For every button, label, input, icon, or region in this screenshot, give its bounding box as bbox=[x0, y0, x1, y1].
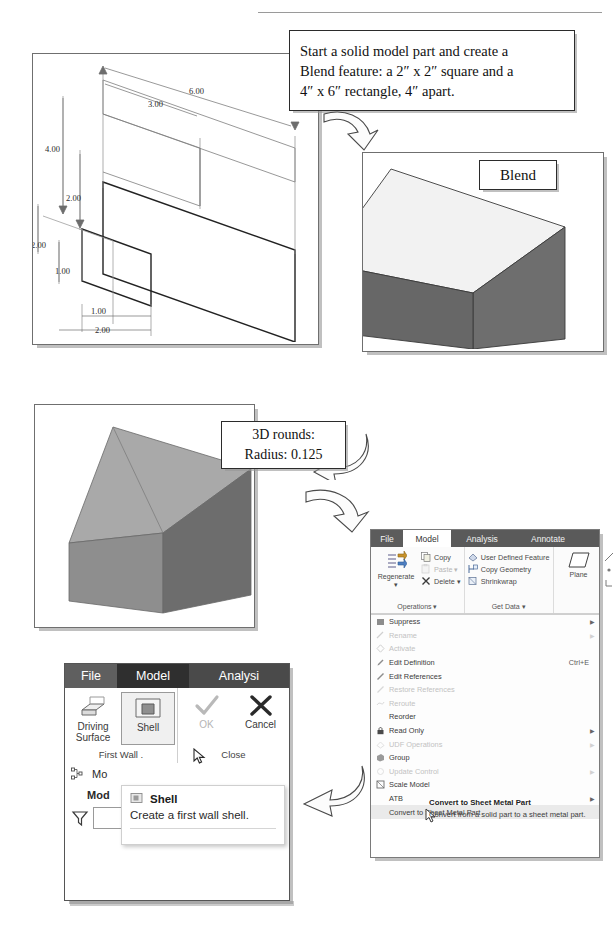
model-tree-icon bbox=[71, 767, 87, 781]
rounded-solid-model bbox=[35, 405, 252, 625]
shell-tab-analysis[interactable]: Analysi bbox=[189, 664, 289, 688]
menu-item-suppress[interactable]: Suppress ▶ bbox=[371, 615, 599, 629]
blend-callout: Blend bbox=[479, 160, 557, 190]
instruction-line-2: Blend feature: a 2″ x 2″ square and a bbox=[300, 61, 564, 81]
cancel-button[interactable]: Cancel bbox=[235, 692, 287, 732]
model-tree-label: Mo bbox=[92, 768, 107, 780]
menu-item-reorder[interactable]: Reorder bbox=[371, 710, 599, 724]
dim-6-00: 6.00 bbox=[189, 86, 204, 96]
model-tree-row[interactable]: Mo bbox=[65, 763, 289, 785]
update-control-icon bbox=[375, 767, 386, 776]
feature-context-menu: Suppress ▶ Rename ▶ Activate bbox=[371, 614, 599, 819]
ribbon-tab-overflow bbox=[583, 530, 599, 547]
shell-group-first-wall: DrivingSurface Shell First Wall . bbox=[65, 688, 178, 763]
menu-item-edit-definition[interactable]: Edit Definition Ctrl+E bbox=[371, 656, 599, 670]
shell-tooltip-body: Create a first wall shell. bbox=[122, 807, 284, 823]
shell-tab-model[interactable]: Model bbox=[117, 664, 189, 688]
edit-definition-shortcut: Ctrl+E bbox=[569, 658, 595, 667]
coordinate-system-icon[interactable] bbox=[604, 578, 614, 588]
rounds-line-1: 3D rounds: bbox=[222, 425, 345, 445]
plane-button[interactable]: Plane bbox=[557, 550, 601, 588]
read-only-icon bbox=[375, 726, 386, 735]
reroute-icon bbox=[375, 699, 386, 708]
shell-tooltip-divider bbox=[130, 828, 276, 829]
shell-button[interactable]: Shell bbox=[121, 692, 175, 745]
paste-command: Paste ▾ bbox=[421, 564, 461, 574]
ribbon-tab-file[interactable]: File bbox=[371, 530, 403, 547]
first-wall-group-title[interactable]: First Wall . bbox=[67, 747, 175, 763]
driving-surface-button[interactable]: DrivingSurface bbox=[67, 692, 119, 745]
udf-icon bbox=[468, 552, 478, 562]
dim-3-00: 3.00 bbox=[148, 99, 163, 109]
instruction-callout: Start a solid model part and create a Bl… bbox=[289, 30, 575, 111]
menu-item-update-control: Update Control ▶ bbox=[371, 765, 599, 779]
operations-group-title[interactable]: Operations ▾ bbox=[374, 603, 461, 613]
user-defined-feature-command[interactable]: User Defined Feature bbox=[468, 552, 550, 562]
copy-geometry-label: Copy Geometry bbox=[481, 565, 531, 574]
ribbon-body: Regenerate▾ Copy bbox=[371, 547, 599, 614]
driving-surface-label: DrivingSurface bbox=[76, 721, 110, 743]
cancel-label: Cancel bbox=[245, 719, 276, 730]
menu-item-restore-references: Restore References bbox=[371, 683, 599, 697]
regenerate-button[interactable]: Regenerate▾ bbox=[374, 550, 418, 589]
check-icon bbox=[194, 694, 220, 718]
instruction-line-1: Start a solid model part and create a bbox=[300, 41, 564, 61]
tooltip-body: Convert from a solid part to a sheet met… bbox=[429, 810, 595, 820]
regenerate-icon bbox=[385, 550, 407, 572]
shrinkwrap-label: Shrinkwrap bbox=[481, 577, 517, 586]
datum-mini-commands bbox=[604, 550, 614, 588]
copy-geometry-command[interactable]: Copy Geometry bbox=[468, 564, 550, 574]
ribbon-tab-model[interactable]: Model bbox=[403, 530, 451, 547]
delete-icon bbox=[421, 576, 431, 586]
edit-definition-icon bbox=[375, 658, 386, 667]
x-icon bbox=[248, 694, 274, 718]
ok-label: OK bbox=[199, 719, 213, 730]
menu-item-read-only[interactable]: Read Only ▶ bbox=[371, 724, 599, 738]
dim-2-00-c: 2.00 bbox=[95, 325, 110, 335]
menu-item-reroute: Reroute bbox=[371, 697, 599, 711]
filter-icon[interactable] bbox=[71, 809, 89, 827]
copy-label: Copy bbox=[434, 553, 451, 562]
shell-tab-file[interactable]: File bbox=[65, 664, 117, 688]
sketch-drawing: 6.00 3.00 4.00 2.00 2.00 1.00 1.00 2.00 bbox=[33, 54, 316, 342]
menu-item-edit-references[interactable]: Edit References bbox=[371, 669, 599, 683]
datum-group-title bbox=[557, 604, 614, 613]
convert-sheetmetal-tooltip: Convert to Sheet Metal Part Convert from… bbox=[429, 798, 595, 820]
blend-callout-label: Blend bbox=[480, 167, 556, 184]
ribbon-tab-annotate[interactable]: Annotate bbox=[513, 530, 583, 547]
ribbon-tabbar: File Model Analysis Annotate bbox=[371, 530, 599, 547]
sketch-figure-panel: 6.00 3.00 4.00 2.00 2.00 1.00 1.00 2.00 bbox=[32, 53, 319, 345]
delete-label: Delete ▾ bbox=[434, 577, 461, 586]
rounds-line-2: Radius: 0.125 bbox=[222, 445, 345, 465]
menu-item-group[interactable]: Group bbox=[371, 751, 599, 765]
delete-command[interactable]: Delete ▾ bbox=[421, 576, 461, 586]
shrinkwrap-icon bbox=[468, 576, 478, 586]
shell-tabbar: File Model Analysi bbox=[65, 664, 289, 688]
paste-label: Paste ▾ bbox=[434, 565, 458, 574]
dim-1-00-a: 1.00 bbox=[55, 266, 70, 276]
paste-icon bbox=[421, 564, 431, 574]
get-data-group-title[interactable]: Get Data ▾ bbox=[468, 603, 550, 613]
ribbon-group-datum: Plane bbox=[554, 547, 614, 613]
plane-label: Plane bbox=[570, 571, 588, 579]
arrow-sketch-to-blend bbox=[318, 104, 382, 156]
menu-item-scale-model[interactable]: Scale Model bbox=[371, 778, 599, 792]
dim-2-00-b: 2.00 bbox=[33, 240, 46, 250]
shell-ribbon-body: DrivingSurface Shell First Wall . bbox=[65, 688, 289, 763]
dim-1-00-b: 1.00 bbox=[91, 306, 106, 316]
shell-panel-shadow bbox=[70, 901, 294, 906]
copy-command[interactable]: Copy bbox=[421, 552, 461, 562]
copy-geometry-icon bbox=[468, 564, 478, 574]
shrinkwrap-command[interactable]: Shrinkwrap bbox=[468, 576, 550, 586]
menu-item-activate: Activate bbox=[371, 642, 599, 656]
ribbon-tab-analysis[interactable]: Analysis bbox=[451, 530, 513, 547]
group-icon bbox=[375, 753, 386, 762]
ribbon-group-get-data: User Defined Feature Copy Geometry bbox=[465, 547, 554, 613]
dim-4-00: 4.00 bbox=[45, 144, 60, 154]
figure-page: 6.00 3.00 4.00 2.00 2.00 1.00 1.00 2.00 … bbox=[0, 0, 614, 928]
driving-surface-icon bbox=[78, 694, 108, 720]
axis-icon[interactable] bbox=[604, 552, 614, 562]
restore-references-icon bbox=[375, 685, 386, 694]
point-icon[interactable] bbox=[604, 565, 614, 575]
menu-item-rename: Rename ▶ bbox=[371, 629, 599, 643]
